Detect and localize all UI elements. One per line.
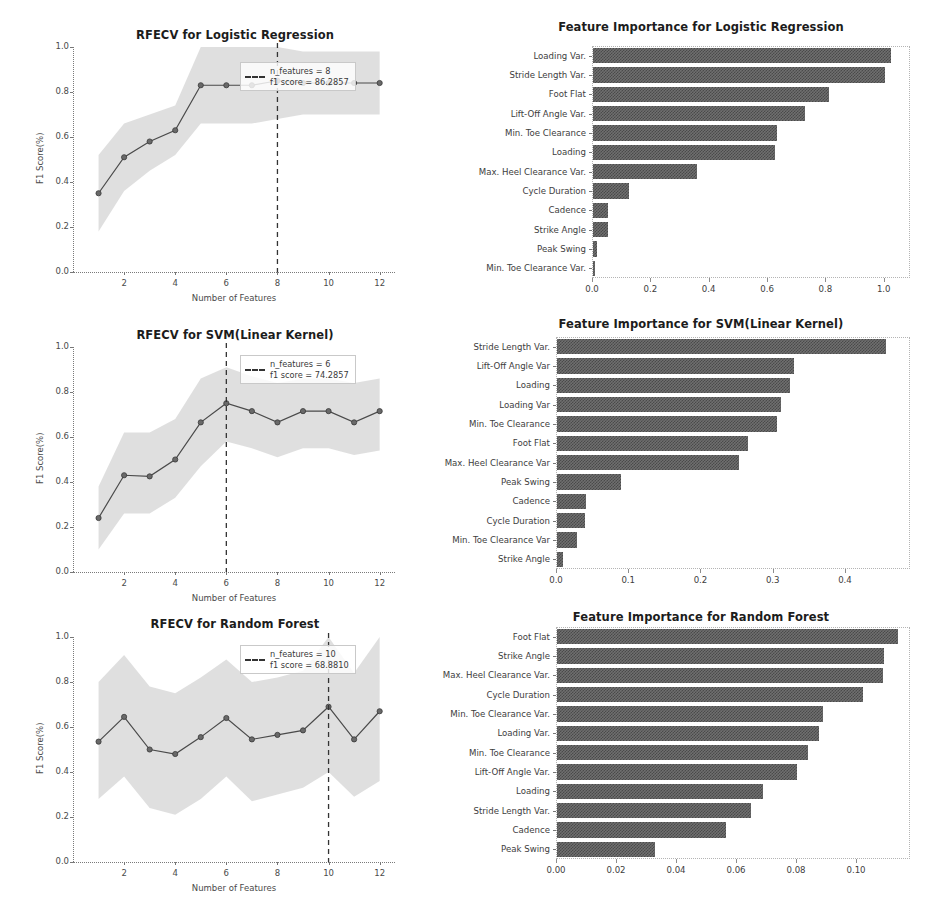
bar-category-label: Min. Toe Clearance: [386, 748, 550, 758]
bar-category-tick: [553, 772, 556, 773]
data-point-marker: [198, 735, 203, 740]
bar-x-tick: [796, 859, 797, 863]
bar: [557, 706, 823, 721]
legend-dash-icon: [245, 659, 265, 661]
bar-category-label: Loading: [386, 786, 550, 796]
legend-n-features-label: n_features = 10: [270, 649, 349, 660]
bar-category-tick: [553, 637, 556, 638]
bar: [557, 668, 883, 683]
bar-category-tick: [553, 849, 556, 850]
data-point-marker: [275, 732, 280, 737]
bar: [557, 687, 863, 702]
bar-category-tick: [553, 811, 556, 812]
bar-category-label: Max. Heel Clearance Var.: [386, 670, 550, 680]
bar-category-label: Cycle Duration: [386, 690, 550, 700]
bar-category-label: Foot Flat: [386, 632, 550, 642]
bar-category-label: Lift-Off Angle Var.: [386, 767, 550, 777]
bar-x-tick: [616, 859, 617, 863]
bar-category-label: Strike Angle: [386, 651, 550, 661]
bar-x-tick: [556, 859, 557, 863]
bar-category-tick: [553, 791, 556, 792]
bar-category-tick: [553, 675, 556, 676]
bar: [557, 842, 655, 857]
bar: [557, 726, 819, 741]
bar: [557, 803, 751, 818]
bar: [557, 648, 884, 663]
bar-category-label: Peak Swing: [386, 844, 550, 854]
bar-category-label: Cadence: [386, 825, 550, 835]
bar-category-tick: [553, 656, 556, 657]
bar-category-tick: [553, 830, 556, 831]
bar-category-tick: [553, 733, 556, 734]
bar-category-tick: [553, 714, 556, 715]
data-point-marker: [377, 709, 382, 714]
bar-category-label: Loading Var.: [386, 728, 550, 738]
bar: [557, 822, 726, 837]
plot-layer: 0.00.20.40.60.81.024681012Number of Feat…: [0, 0, 942, 920]
data-point-marker: [147, 747, 152, 752]
bar-x-tick-label: 0.02: [606, 865, 625, 875]
data-point-marker: [300, 728, 305, 733]
data-point-marker: [122, 714, 127, 719]
bar-x-tick-label: 0.04: [666, 865, 685, 875]
data-point-marker: [173, 751, 178, 756]
legend-f1-score-label: f1 score = 68.8810: [270, 660, 349, 671]
data-point-marker: [224, 715, 229, 720]
data-point-marker: [96, 739, 101, 744]
bar: [557, 745, 808, 760]
data-point-marker: [249, 737, 254, 742]
bar-category-tick: [553, 753, 556, 754]
bar: [557, 629, 898, 644]
legend-box[interactable]: n_features = 10f1 score = 68.8810: [240, 645, 356, 674]
bar-x-tick: [856, 859, 857, 863]
bar-category-tick: [553, 695, 556, 696]
data-point-marker: [352, 737, 357, 742]
bar-x-tick-label: 0.06: [726, 865, 745, 875]
bar-category-label: Stride Length Var.: [386, 806, 550, 816]
bar: [557, 764, 797, 779]
bar-x-tick-label: 0.08: [786, 865, 805, 875]
legend-text-block: n_features = 10f1 score = 68.8810: [270, 649, 349, 670]
bar-x-tick-label: 0.10: [846, 865, 865, 875]
bar-x-tick: [736, 859, 737, 863]
bar-x-tick: [676, 859, 677, 863]
bar: [557, 784, 763, 799]
figure-canvas: RFECV for Logistic Regression Feature Im…: [0, 0, 942, 920]
bar-x-tick-label: 0.00: [546, 865, 565, 875]
bar-category-label: Min. Toe Clearance Var.: [386, 709, 550, 719]
